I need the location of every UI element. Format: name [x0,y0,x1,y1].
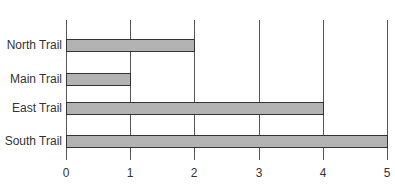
x-tick-label: 2 [184,166,204,180]
x-tick-label: 4 [313,166,333,180]
bar [66,39,195,52]
category-label: North Trail [7,38,62,52]
x-tick-label: 0 [56,166,76,180]
x-tick-label: 1 [120,166,140,180]
category-label: South Trail [5,134,62,148]
x-tick-label: 5 [377,166,395,180]
bar [66,102,324,115]
category-label: Main Trail [10,72,62,86]
x-tick-label: 3 [249,166,269,180]
category-label: East Trail [12,101,62,115]
bar [66,135,388,148]
bar [66,73,131,86]
